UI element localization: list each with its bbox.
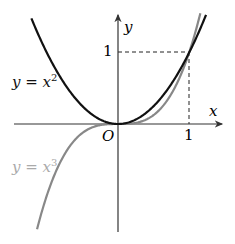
x-tick-1: 1: [184, 128, 194, 143]
parabola-curve: [31, 15, 206, 124]
dashed-guides: [118, 52, 189, 124]
y-axis-label: y: [124, 20, 132, 35]
function-graph: y x O 1 1 y = x2 y = x3: [0, 0, 235, 244]
graph-canvas: [0, 0, 235, 244]
cubic-label: y = x3: [12, 158, 57, 175]
parabola-label: y = x2: [12, 73, 57, 90]
x-axis-label: x: [209, 104, 217, 119]
origin-label: O: [102, 129, 114, 144]
cubic-curve: [37, 13, 200, 229]
y-tick-1: 1: [103, 44, 113, 59]
